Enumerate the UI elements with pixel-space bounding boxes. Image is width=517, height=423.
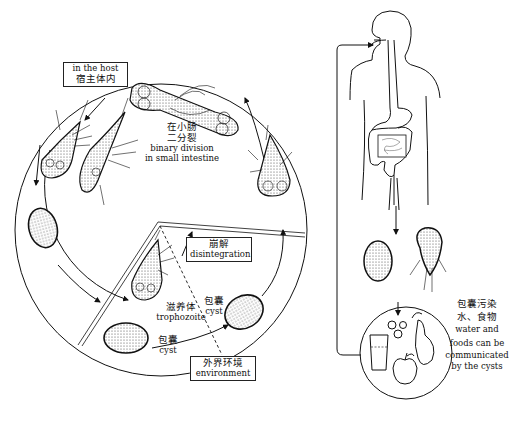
right-cyst-icon	[364, 241, 392, 281]
cyst-upper-en: cyst	[201, 307, 227, 317]
human-body-icon	[350, 11, 440, 210]
pear-icon	[412, 313, 434, 365]
right-cyst-trophozoite-icons	[364, 228, 446, 292]
contamination-cn-2: 水、食物	[444, 311, 510, 324]
trophozoite-label: 滋养体 trophozoite	[156, 302, 206, 323]
trophozoite-en: trophozoite	[156, 313, 206, 323]
contamination-en-1: water and	[444, 324, 510, 335]
contamination-en-4: by the cysts	[444, 361, 510, 372]
grapes-icon	[388, 321, 407, 338]
disintegration-label-box: 崩解 disintegration	[186, 237, 252, 262]
cyst-in-host-icon	[24, 205, 61, 251]
cyst-excreted-icon	[104, 323, 148, 353]
apple-icon	[393, 353, 417, 384]
water-glass-icon	[370, 335, 388, 370]
cyst-lower-en: cyst	[155, 346, 181, 356]
contamination-label: 包囊污染 水、食物 water and foods can be communi…	[444, 298, 510, 373]
contamination-en-3: communicated	[444, 350, 510, 361]
right-trophozoite-icon	[417, 228, 442, 275]
transmission-loop-arrow	[337, 45, 373, 355]
contamination-en-2: foods can be	[444, 338, 510, 349]
in-host-label-cn: 宿主体内	[67, 74, 124, 85]
disintegration-en: disintegration	[190, 250, 248, 260]
cyst-label-lower: 包囊 cyst	[155, 335, 181, 356]
in-host-label-box: in the host 宿主体内	[63, 62, 128, 87]
binary-division-en-2: in small intestine	[143, 154, 221, 164]
binary-division-label: 在小肠 二分裂 binary division in small intesti…	[143, 122, 221, 163]
environment-en: environment	[194, 369, 252, 379]
environment-label-box: 外界环境 environment	[190, 356, 256, 381]
contaminated-food-water-circle	[360, 307, 452, 399]
trophozoite-right-icon	[248, 125, 292, 196]
trophozoite-disintegrating-icon	[132, 230, 174, 300]
contamination-cn-1: 包囊污染	[444, 298, 510, 311]
cyst-label-upper: 包囊 cyst	[201, 296, 227, 317]
trophozoite-left-icon	[41, 98, 138, 205]
